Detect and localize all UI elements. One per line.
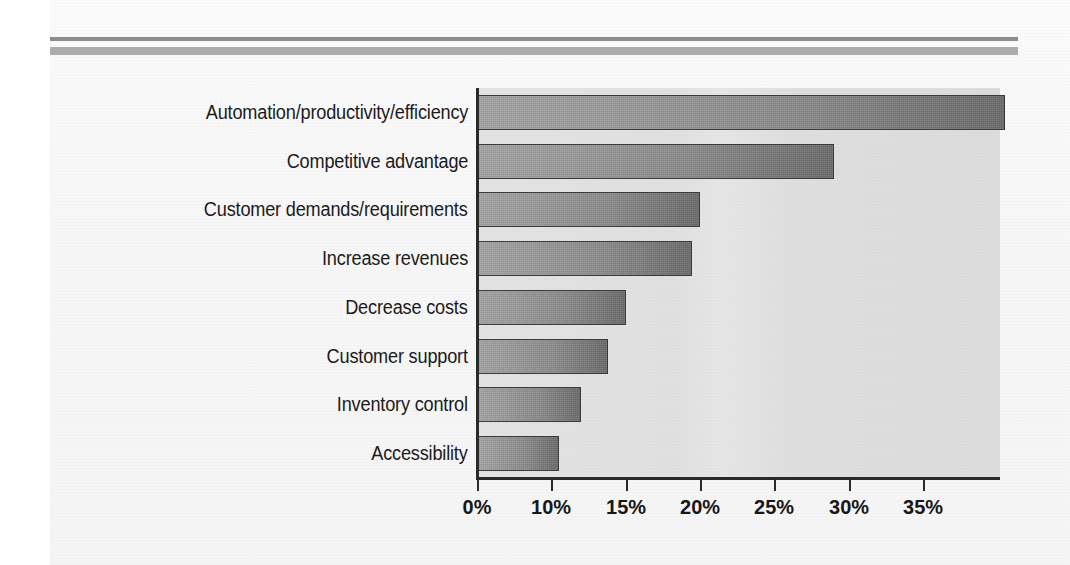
bar-row: Decrease costs [0, 283, 1070, 332]
bar [477, 241, 692, 276]
bar-row: Inventory control [0, 381, 1070, 430]
category-label: Accessibility [372, 442, 468, 465]
category-label: Customer support [327, 345, 468, 368]
category-label: Increase revenues [322, 247, 468, 270]
bar-row: Customer demands/requirements [0, 186, 1070, 235]
bar-row: Accessibility [0, 429, 1070, 478]
bar-rows: Automation/productivity/efficiencyCompet… [0, 88, 1070, 478]
bar [477, 290, 626, 325]
category-label: Automation/productivity/efficiency [206, 101, 468, 124]
bar [477, 144, 834, 179]
x-axis-tick-label: 20% [680, 495, 720, 519]
bar [477, 192, 700, 227]
x-axis-tick [849, 479, 851, 491]
category-label: Customer demands/requirements [204, 198, 468, 221]
bar-row: Customer support [0, 332, 1070, 381]
bar-row: Automation/productivity/efficiency [0, 88, 1070, 137]
x-axis-line [476, 477, 1000, 480]
x-axis-tick [923, 479, 925, 491]
scanned-page: Automation/productivity/efficiencyCompet… [0, 0, 1070, 565]
category-label: Competitive advantage [286, 150, 468, 173]
x-axis-tick [551, 479, 553, 491]
x-axis-tick [626, 479, 628, 491]
x-axis-tick [774, 479, 776, 491]
x-axis-tick-label: 10% [531, 495, 571, 519]
y-axis-line [476, 88, 479, 478]
x-axis-tick [477, 479, 479, 491]
bar [477, 95, 1005, 130]
category-label: Inventory control [337, 393, 468, 416]
bar-row: Increase revenues [0, 234, 1070, 283]
horizontal-bar-chart: Automation/productivity/efficiencyCompet… [0, 0, 1070, 565]
bar-row: Competitive advantage [0, 137, 1070, 186]
x-axis-tick-label: 35% [903, 495, 943, 519]
x-axis-tick-label: 0% [463, 495, 492, 519]
x-axis-tick-label: 25% [754, 495, 794, 519]
x-axis-tick [700, 479, 702, 491]
bar [477, 339, 608, 374]
bar [477, 387, 581, 422]
x-axis-tick-label: 15% [606, 495, 646, 519]
x-axis-tick-label: 30% [829, 495, 869, 519]
category-label: Decrease costs [346, 296, 468, 319]
bar [477, 436, 559, 471]
